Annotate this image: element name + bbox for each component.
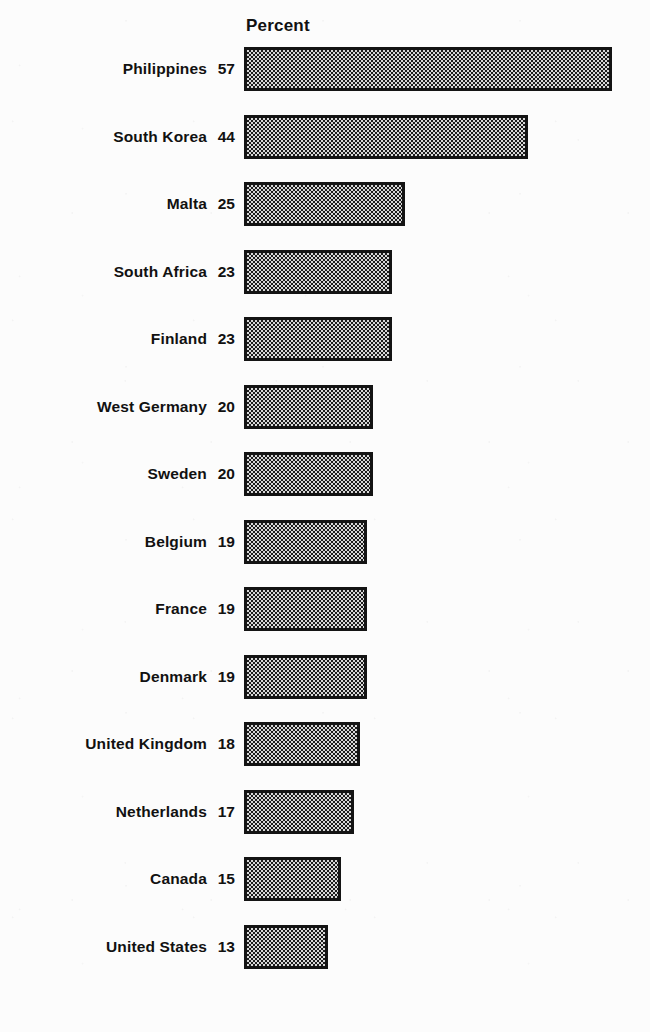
bar-row: Belgium19	[0, 517, 650, 567]
bar-row-value: 20	[207, 382, 235, 432]
bar-row-value: 13	[207, 922, 235, 972]
bar-row-value: 19	[207, 584, 235, 634]
bar-row-label: United Kingdom	[0, 719, 207, 769]
bar-row-value: 17	[207, 787, 235, 837]
bar-row-label: Malta	[0, 179, 207, 229]
bar-row-value: 19	[207, 652, 235, 702]
bar	[244, 655, 367, 699]
bar-row-label: Belgium	[0, 517, 207, 567]
bar	[244, 115, 528, 159]
bar-row-label: United States	[0, 922, 207, 972]
bar-row-label: Philippines	[0, 44, 207, 94]
chart-title-cutoff	[186, 0, 636, 3]
bar-row-label: South Korea	[0, 112, 207, 162]
bar-row-value: 23	[207, 314, 235, 364]
bar	[244, 790, 354, 834]
bar	[244, 317, 392, 361]
bar	[244, 182, 405, 226]
bar-row-label: France	[0, 584, 207, 634]
bar-row-label: West Germany	[0, 382, 207, 432]
bar-row-label: Canada	[0, 854, 207, 904]
bar-row: France19	[0, 584, 650, 634]
bar-row-value: 44	[207, 112, 235, 162]
bar	[244, 587, 367, 631]
bar-row-label: Finland	[0, 314, 207, 364]
bar-row-label: Sweden	[0, 449, 207, 499]
bar-row: Denmark19	[0, 652, 650, 702]
bar-row-value: 57	[207, 44, 235, 94]
bar	[244, 520, 367, 564]
bar-row: West Germany20	[0, 382, 650, 432]
bar-row: Sweden20	[0, 449, 650, 499]
bar-row: Philippines57	[0, 44, 650, 94]
chart-page: Percent Philippines57South Korea44Malta2…	[0, 0, 650, 1032]
bar	[244, 857, 341, 901]
bar-row-value: 18	[207, 719, 235, 769]
bar-row-value: 20	[207, 449, 235, 499]
bar-row-value: 15	[207, 854, 235, 904]
bar	[244, 452, 373, 496]
bar-row-label: Netherlands	[0, 787, 207, 837]
bar	[244, 250, 392, 294]
bar-row: Finland23	[0, 314, 650, 364]
bar	[244, 385, 373, 429]
bar-row: South Africa23	[0, 247, 650, 297]
bar-row-label: South Africa	[0, 247, 207, 297]
bar-row-value: 19	[207, 517, 235, 567]
bar-row: United States13	[0, 922, 650, 972]
bar	[244, 925, 328, 969]
bar-row: South Korea44	[0, 112, 650, 162]
bar-row: Malta25	[0, 179, 650, 229]
bar-row-value: 23	[207, 247, 235, 297]
bar-row: Canada15	[0, 854, 650, 904]
bar-row-value: 25	[207, 179, 235, 229]
bar	[244, 47, 612, 91]
bar-row: Netherlands17	[0, 787, 650, 837]
bar-row: United Kingdom18	[0, 719, 650, 769]
percent-axis-header: Percent	[246, 16, 310, 36]
bar	[244, 722, 360, 766]
bar-row-label: Denmark	[0, 652, 207, 702]
